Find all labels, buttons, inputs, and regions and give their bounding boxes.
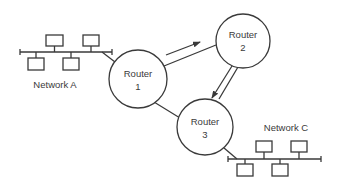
router-1 [109, 50, 167, 108]
router-3-label: Router [191, 116, 220, 127]
link-router-3-network-c [224, 148, 237, 159]
host-icon [291, 141, 307, 152]
link-router-1-router-2 [164, 45, 216, 66]
router-3 [177, 99, 233, 155]
network-a-label: Network A [33, 79, 77, 90]
host-icon [63, 58, 79, 70]
router-1-number: 1 [135, 81, 140, 92]
network-c [228, 141, 321, 176]
router-2-label: Router [229, 29, 258, 40]
host-icon [83, 35, 99, 46]
link-network-a-router-1 [102, 52, 115, 62]
network-a [20, 35, 112, 70]
host-icon [28, 58, 44, 70]
host-icon [272, 164, 288, 176]
router-3-number: 3 [202, 129, 207, 140]
host-icon [256, 141, 272, 152]
host-icon [46, 35, 63, 46]
link-router-1-router-3 [154, 102, 180, 118]
router-1-label: Router [124, 68, 153, 79]
network-c-label: Network C [264, 122, 308, 133]
host-icon [237, 164, 253, 176]
router-2 [216, 14, 270, 68]
network-diagram: Router 1 Router 2 Router 3 Network A Net… [0, 0, 339, 182]
router-2-number: 2 [240, 42, 245, 53]
